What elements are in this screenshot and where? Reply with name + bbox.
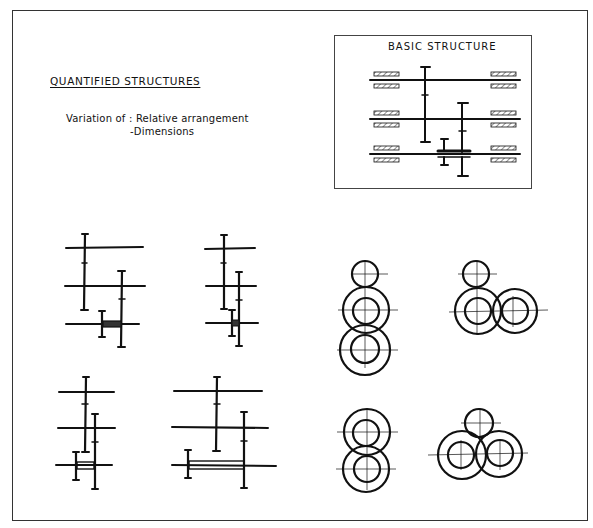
diagram-canvas xyxy=(0,0,593,528)
gear-arrangement-triangular-three xyxy=(428,408,528,479)
schematic-variant-1 xyxy=(65,234,145,347)
gear-arrangement-l-shaped-three xyxy=(449,260,548,335)
schematic-variant-2 xyxy=(205,235,258,346)
basic-structure-schematic xyxy=(370,67,520,176)
gear-arrangement-vertical-two xyxy=(336,409,398,492)
schematic-variant-4 xyxy=(172,377,276,488)
schematic-variant-3 xyxy=(56,377,115,489)
gear-arrangement-vertical-three xyxy=(337,260,398,375)
